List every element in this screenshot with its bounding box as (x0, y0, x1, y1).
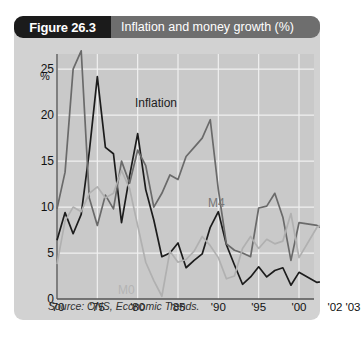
x-tick-label: '03 (346, 301, 361, 313)
x-tick-label: '02 (328, 301, 343, 313)
series-label-m0: M0 (118, 283, 135, 297)
series-label-m4: M4 (208, 196, 225, 210)
series-label-inflation: Inflation (135, 96, 177, 110)
x-tick-label: '95 (251, 301, 266, 313)
chart-svg (14, 38, 320, 320)
figure-header: Figure 26.3 Inflation and money growth (… (14, 16, 320, 38)
x-tick-label: '90 (211, 301, 226, 313)
figure-number-tag: Figure 26.3 (14, 16, 111, 38)
source-note: Source: ONS, Economic Trends. (48, 300, 200, 312)
x-tick-label: '00 (292, 301, 307, 313)
figure-title: Inflation and money growth (%) (111, 16, 320, 38)
plot-area: % 0510152025 Inflation M4 M0 '70'75'80'8… (14, 38, 320, 320)
figure-panel: Figure 26.3 Inflation and money growth (… (14, 16, 320, 320)
